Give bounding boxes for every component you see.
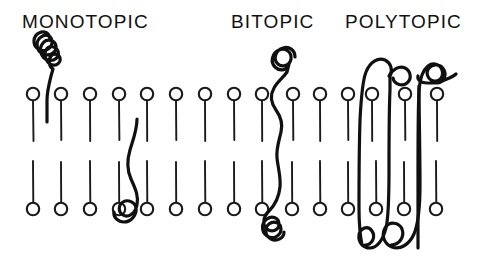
lipid-head-icon xyxy=(141,88,153,100)
topology-labels: MONOTOPIC BITOPIC POLYTOPIC xyxy=(22,11,462,32)
label-bitopic: BITOPIC xyxy=(231,11,314,32)
lipid-head-icon xyxy=(430,203,442,215)
lipid-head-icon xyxy=(199,88,211,100)
lipid-head-icon xyxy=(287,88,299,100)
lipid-head-icon xyxy=(55,88,67,100)
lipid-head-icon xyxy=(370,203,382,215)
lipid-head-icon xyxy=(314,88,326,100)
lipid-head-icon xyxy=(84,88,96,100)
label-monotopic: MONOTOPIC xyxy=(22,11,149,32)
lipid-head-icon xyxy=(27,88,39,100)
lipid-head-icon xyxy=(398,203,410,215)
lipid-head-icon xyxy=(314,203,326,215)
lipid-head-icon xyxy=(228,88,240,100)
lipid-head-icon xyxy=(170,88,182,100)
lipid-head-icon xyxy=(199,203,211,215)
lipid-head-icon xyxy=(286,203,298,215)
lipid-head-icon xyxy=(84,203,96,215)
lipid-head-icon xyxy=(399,88,411,100)
lipid-head-icon xyxy=(431,88,443,100)
figure-background xyxy=(0,0,484,272)
lipid-head-icon xyxy=(170,203,182,215)
lipid-head-icon xyxy=(141,203,153,215)
figure-canvas: MONOTOPIC BITOPIC POLYTOPIC xyxy=(0,0,484,272)
membrane-topology-figure: MONOTOPIC BITOPIC POLYTOPIC xyxy=(0,0,484,272)
lipid-head-icon xyxy=(256,88,268,100)
lipid-head-icon xyxy=(228,203,240,215)
lipid-head-icon xyxy=(342,203,354,215)
lipid-head-icon xyxy=(366,88,378,100)
lipid-head-icon xyxy=(55,203,67,215)
lipid-head-icon xyxy=(27,203,39,215)
label-polytopic: POLYTOPIC xyxy=(345,11,462,32)
lipid-head-icon xyxy=(113,88,125,100)
lipid-head-icon xyxy=(342,88,354,100)
